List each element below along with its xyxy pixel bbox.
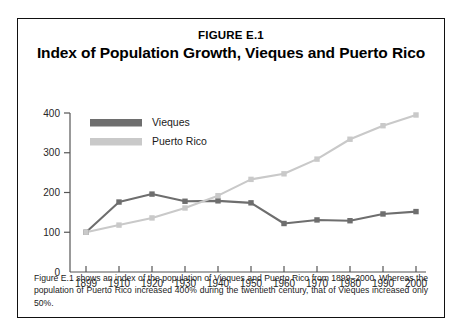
chart-legend: ViequesPuerto Rico (90, 116, 207, 147)
series-line-puerto-rico (86, 115, 416, 232)
data-point-puerto-rico-1940 (215, 193, 220, 198)
data-point-puerto-rico-1970 (314, 156, 319, 161)
legend-swatch-vieques (90, 119, 142, 127)
data-point-puerto-rico-2000 (413, 112, 418, 117)
figure-title: Index of Population Growth, Vieques and … (18, 42, 444, 63)
legend-label-vieques: Vieques (152, 116, 190, 128)
population-index-line-chart: 0100200300400 18991910192019301940195019… (18, 79, 444, 294)
y-tick-label-200: 200 (43, 187, 60, 198)
data-point-vieques-1910 (116, 199, 121, 204)
data-point-puerto-rico-1920 (149, 215, 154, 220)
series-line-vieques (86, 194, 416, 232)
chart-plot-area: 0100200300400 18991910192019301940195019… (18, 79, 444, 294)
data-point-vieques-1930 (182, 199, 187, 204)
figure-frame: FIGURE E.1 Index of Population Growth, V… (17, 18, 445, 318)
data-point-vieques-1970 (314, 217, 319, 222)
data-point-puerto-rico-1980 (347, 137, 352, 142)
legend-swatch-puerto-rico (90, 138, 142, 146)
caption-box: Figure E.1 shows an index of the populat… (18, 272, 444, 309)
y-axis: 0100200300400 (43, 108, 70, 278)
data-series-group (83, 112, 418, 235)
data-point-vieques-2000 (413, 209, 418, 214)
data-point-puerto-rico-1990 (380, 123, 385, 128)
y-tick-label-400: 400 (43, 108, 60, 119)
y-tick-label-100: 100 (43, 227, 60, 238)
data-point-vieques-1920 (149, 191, 154, 196)
data-point-puerto-rico-1930 (182, 205, 187, 210)
data-point-puerto-rico-1950 (248, 177, 253, 182)
data-point-vieques-1950 (248, 200, 253, 205)
data-point-vieques-1960 (281, 221, 286, 226)
figure-number: FIGURE E.1 (18, 28, 444, 42)
data-point-puerto-rico-1910 (116, 222, 121, 227)
y-tick-label-300: 300 (43, 147, 60, 158)
data-point-vieques-1940 (215, 198, 220, 203)
figure-caption: Figure E.1 shows an index of the populat… (34, 272, 428, 309)
title-block: FIGURE E.1 Index of Population Growth, V… (18, 19, 444, 63)
legend-label-puerto-rico: Puerto Rico (152, 135, 207, 147)
data-point-vieques-1980 (347, 218, 352, 223)
data-point-puerto-rico-1899 (83, 230, 88, 235)
data-point-vieques-1990 (380, 211, 385, 216)
data-point-puerto-rico-1960 (281, 171, 286, 176)
